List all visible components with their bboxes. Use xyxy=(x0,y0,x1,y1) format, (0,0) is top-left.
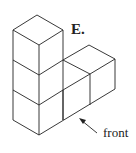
level-line xyxy=(13,120,39,135)
level-line xyxy=(13,60,39,75)
level-line xyxy=(39,90,63,105)
extension-top-face xyxy=(63,45,115,74)
level-line xyxy=(39,60,63,75)
front-label: front xyxy=(103,125,128,141)
extension-edge xyxy=(63,74,90,90)
top-cube-top-face xyxy=(13,15,63,45)
level-line xyxy=(13,90,39,105)
option-label: E. xyxy=(71,21,85,38)
